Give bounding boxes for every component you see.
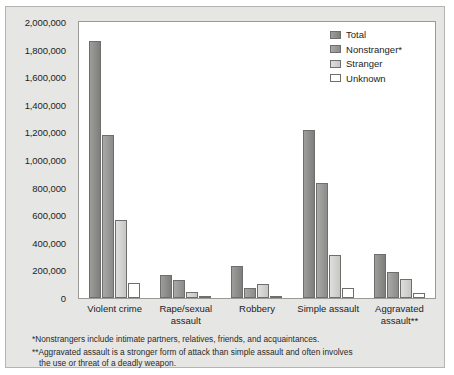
legend-item: Nonstranger* (330, 44, 402, 55)
legend-item: Stranger (330, 58, 402, 69)
bar (244, 288, 256, 298)
y-axis-tick-label: 1,000,000 (25, 155, 66, 166)
bar (257, 284, 269, 298)
legend-item: Total (330, 29, 402, 40)
bar (89, 41, 101, 298)
bar (231, 266, 243, 298)
bar (374, 254, 386, 298)
x-axis-category-label: Robbery (221, 303, 292, 333)
x-axis-category-label: Violent crime (79, 303, 150, 333)
legend-label: Nonstranger* (346, 44, 402, 55)
y-axis-tick-label: 0 (61, 293, 66, 304)
legend-swatch-icon (330, 45, 341, 53)
y-axis: 2,000,0001,800,0001,600,0001,400,0001,20… (12, 21, 74, 299)
y-axis-tick-label: 1,400,000 (25, 99, 66, 110)
legend-swatch-icon (330, 31, 341, 39)
bar (270, 296, 282, 298)
y-axis-tick-label: 2,000,000 (25, 17, 66, 28)
y-axis-tick-label: 1,800,000 (25, 44, 66, 55)
y-axis-tick-label: 800,000 (32, 182, 66, 193)
bar-group (89, 22, 140, 298)
x-axis: Violent crimeRape/sexual assaultRobberyS… (79, 303, 435, 333)
y-axis-tick-label: 400,000 (32, 237, 66, 248)
bar (303, 130, 315, 298)
x-axis-category-label: Simple assault (293, 303, 364, 333)
y-axis-tick-label: 600,000 (32, 210, 66, 221)
bar (342, 288, 354, 298)
footnote-nonstranger: *Nonstrangers include intimate partners,… (32, 334, 436, 346)
y-axis-tick-label: 200,000 (32, 265, 66, 276)
x-axis-category-label: Rape/sexual assault (150, 303, 221, 333)
bar (186, 292, 198, 298)
footnotes: *Nonstrangers include intimate partners,… (32, 334, 436, 371)
bar (400, 279, 412, 298)
bar (413, 293, 425, 298)
y-axis-tick-label: 1,200,000 (25, 127, 66, 138)
bar (329, 255, 341, 298)
bar (199, 296, 211, 298)
footnote-aggravated-line1: **Aggravated assault is a stronger form … (32, 347, 353, 357)
legend-label: Stranger (346, 58, 382, 69)
legend-swatch-icon (330, 60, 341, 68)
legend-item: Unknown (330, 73, 402, 84)
bar (128, 283, 140, 298)
bar (160, 275, 172, 298)
legend-swatch-icon (330, 74, 341, 82)
chart-panel: 2,000,0001,800,0001,600,0001,400,0001,20… (5, 6, 445, 368)
bar (316, 183, 328, 298)
bar (102, 135, 114, 298)
footnote-aggravated-line2: the use or threat of a deadly weapon. (32, 358, 436, 370)
x-axis-category-label: Aggravated assault** (364, 303, 435, 333)
bar (173, 280, 185, 298)
legend-label: Total (346, 29, 366, 40)
bar (387, 272, 399, 298)
legend-label: Unknown (346, 73, 386, 84)
bar-group (160, 22, 211, 298)
chart-legend: TotalNonstranger*StrangerUnknown (330, 29, 402, 87)
footnote-aggravated: **Aggravated assault is a stronger form … (32, 347, 436, 370)
bar (115, 220, 127, 298)
bar-group (231, 22, 282, 298)
y-axis-tick-label: 1,600,000 (25, 72, 66, 83)
